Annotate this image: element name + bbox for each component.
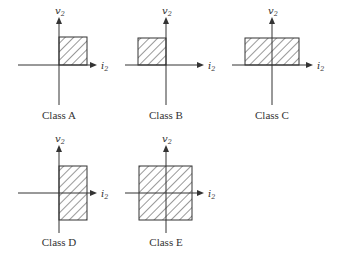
operating-region [59,37,87,65]
arrow-up-icon [163,145,169,152]
class-label: Class E [149,236,183,248]
v2-label: v2 [162,133,172,146]
arrow-right-icon [197,190,204,196]
arrow-right-icon [90,190,97,196]
panel-class-a: v2 i2 Class A [18,5,108,121]
i2-label: i2 [317,60,324,73]
v2-label: v2 [55,5,65,18]
panel-class-b: v2 i2 Class B [125,5,215,121]
arrow-up-icon [56,17,62,24]
i2-label: i2 [101,60,108,73]
class-label: Class C [255,109,289,121]
v2-label: v2 [268,5,278,18]
arrow-right-icon [306,62,313,68]
i2-label: i2 [208,188,215,201]
arrow-up-icon [56,145,62,152]
panel-class-d: v2 i2 Class D [18,133,108,248]
class-diagram: v2 i2 Class A v2 i2 Class B v2 i2 Class … [0,0,340,256]
arrow-right-icon [197,62,204,68]
class-label: Class A [42,109,76,121]
panel-class-e: v2 i2 Class E [125,133,215,248]
class-label: Class D [42,236,77,248]
operating-region [138,38,166,65]
i2-label: i2 [101,188,108,201]
v2-label: v2 [55,133,65,146]
arrow-up-icon [269,17,275,24]
arrow-right-icon [90,62,97,68]
class-label: Class B [149,109,183,121]
panel-class-c: v2 i2 Class C [232,5,324,121]
v2-label: v2 [162,5,172,18]
arrow-up-icon [163,17,169,24]
i2-label: i2 [208,60,215,73]
